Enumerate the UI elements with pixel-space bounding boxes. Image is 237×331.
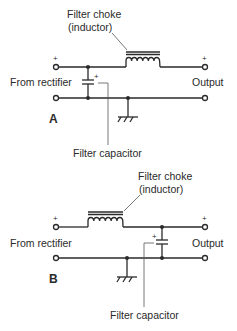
- filter-circuits-diagram: Filter choke (inductor) + +: [0, 0, 237, 331]
- inductor-icon: [88, 212, 123, 227]
- ground-icon: [117, 256, 137, 282]
- terminal-in-neg-a: [54, 96, 59, 101]
- choke-leader-a: [112, 33, 127, 50]
- choke-label-b-line1: Filter choke: [138, 170, 192, 182]
- plus-out-a: +: [202, 54, 207, 63]
- plus-out-b: +: [202, 214, 207, 223]
- terminal-in-pos-b: [54, 225, 59, 230]
- plus-cap-a: +: [94, 72, 99, 81]
- cap-leader-a: [98, 83, 108, 145]
- output-label-b: Output: [192, 237, 224, 249]
- terminal-out-neg-b: [203, 256, 208, 261]
- choke-label-a-line1: Filter choke: [67, 8, 121, 20]
- choke-label-b-line2: (inductor): [139, 183, 183, 195]
- diagram-a: Filter choke (inductor) + +: [10, 8, 224, 159]
- input-label-b: From rectifier: [10, 237, 72, 249]
- diagram-label-a: A: [49, 112, 58, 126]
- input-label-a: From rectifier: [10, 76, 72, 88]
- terminal-in-pos-a: [54, 65, 59, 70]
- capacitor-icon: [82, 65, 94, 100]
- output-label-a: Output: [192, 76, 224, 88]
- cap-leader-b: [144, 243, 154, 307]
- choke-label-a-line2: (inductor): [68, 21, 112, 33]
- terminal-out-neg-a: [203, 96, 208, 101]
- diagram-b: Filter choke (inductor) + +: [10, 170, 224, 321]
- capacitor-label-a: Filter capacitor: [73, 147, 142, 159]
- plus-in-b: +: [53, 214, 58, 223]
- inductor-icon: [126, 52, 160, 67]
- terminal-in-neg-b: [54, 256, 59, 261]
- plus-in-a: +: [53, 54, 58, 63]
- diagram-label-b: B: [49, 272, 58, 286]
- terminal-out-pos-b: [203, 225, 208, 230]
- choke-leader-b: [124, 195, 140, 211]
- terminal-out-pos-a: [203, 65, 208, 70]
- plus-cap-b: +: [152, 232, 157, 241]
- capacitor-label-b: Filter capacitor: [110, 309, 179, 321]
- ground-icon: [118, 96, 138, 122]
- capacitor-icon: [156, 225, 168, 260]
